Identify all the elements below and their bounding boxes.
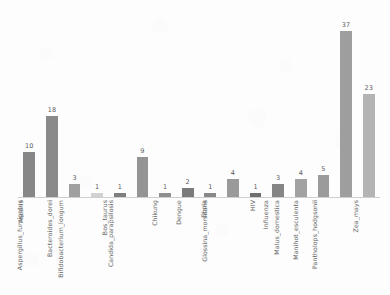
- bar-rect: [46, 116, 58, 197]
- bar-rect: [340, 31, 352, 197]
- bar-malus_domestica: 4: [295, 170, 307, 197]
- bar-dengue: 2: [182, 179, 194, 197]
- category-label-slot: Zea_mays: [357, 200, 380, 292]
- bar-value-label: 3: [276, 175, 280, 182]
- category-label-pantholops_hodgsonii: Pantholops_hodgsonii: [312, 200, 318, 269]
- bar-rect: [318, 175, 330, 197]
- category-label-influenza: Influenza: [264, 200, 270, 229]
- category-label-slot: Dengue: [176, 200, 199, 292]
- bar-glossina_morsitans: 4: [227, 170, 239, 197]
- bar-value-label: 9: [140, 148, 144, 155]
- bar-value-label: 1: [163, 184, 167, 191]
- bar-value-label: 4: [299, 170, 303, 177]
- category-label-hiv: HIV: [250, 200, 256, 211]
- bar-pantholops_hodgsonii: 37: [340, 22, 352, 197]
- bar-bacteroides_dorei: 3: [69, 175, 81, 197]
- category-label-malus_domestica: Malus_domestica: [273, 200, 279, 255]
- category-label-aspergillus_fumigatus: Aspergillus_fumigatus: [17, 200, 23, 270]
- bar-manihot_esculenta: 5: [318, 166, 330, 197]
- category-label-candida_parapsilosis: Candida_parapsilosis: [109, 200, 115, 267]
- bar-chart: 10183119121413453723 AscarisAspergillus_…: [0, 0, 390, 295]
- bar-rect: [137, 157, 149, 197]
- category-label-bifidobacterium_longum: Bifidobacterium_longum: [58, 200, 64, 278]
- category-label-slot: Bacteroides_dorei: [63, 200, 86, 292]
- bar-rect: [69, 184, 81, 197]
- bar-bos_taurus: 1: [114, 184, 126, 197]
- bar-value-label: 1: [95, 184, 99, 191]
- bar-rect: [295, 179, 307, 197]
- bar-rect: [363, 94, 375, 197]
- bar-hiv: 1: [250, 184, 262, 197]
- bar-value-label: 10: [25, 143, 33, 150]
- category-label-slot: Glossina_morsitans: [222, 200, 245, 292]
- x-axis-baseline: [18, 197, 380, 198]
- bar-rect: [182, 188, 194, 197]
- bar-bifidobacterium_longum: 1: [91, 184, 103, 197]
- bar-value-label: 37: [342, 22, 350, 29]
- bar-zea_mays: 23: [363, 85, 375, 197]
- bar-value-label: 5: [321, 166, 325, 173]
- bar-ebola: 1: [204, 184, 216, 197]
- bar-candida_parapsilosis: 9: [137, 148, 149, 197]
- category-label-slot: Chikung: [154, 200, 177, 292]
- bar-value-label: 3: [72, 175, 76, 182]
- bar-ascaris: 10: [23, 143, 35, 197]
- category-label-bacteroides_dorei: Bacteroides_dorei: [46, 200, 52, 257]
- category-label-manihot_esculenta: Manihot_esculenta: [294, 200, 300, 260]
- bar-value-label: 18: [48, 107, 56, 114]
- bar-value-label: 1: [253, 184, 257, 191]
- bar-value-label: 23: [364, 85, 372, 92]
- bar-value-label: 1: [118, 184, 122, 191]
- category-label-zea_mays: Zea_mays: [352, 200, 358, 232]
- bar-chikung: 1: [159, 184, 171, 197]
- category-label-glossina_morsitans: Glossina_morsitans: [202, 200, 208, 262]
- bar-rect: [23, 152, 35, 197]
- plot-area: 10183119121413453723: [18, 8, 380, 197]
- bar-value-label: 4: [231, 170, 235, 177]
- bar-value-label: 1: [208, 184, 212, 191]
- bar-rect: [272, 184, 284, 197]
- bar-aspergillus_fumigatus: 18: [46, 107, 58, 197]
- bar-rect: [227, 179, 239, 197]
- category-label-chikung: Chikung: [152, 200, 158, 226]
- category-label-dengue: Dengue: [175, 200, 181, 225]
- bar-influenza: 3: [272, 175, 284, 197]
- category-axis-labels: AscarisAspergillus_fumigatusBacteroides_…: [18, 200, 380, 292]
- bar-value-label: 2: [186, 179, 190, 186]
